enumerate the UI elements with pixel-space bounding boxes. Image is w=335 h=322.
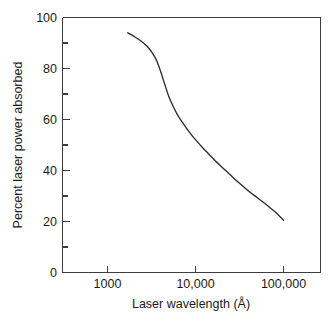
x-tick-label-1000: 1000 — [94, 277, 122, 291]
y-axis-title: Percent laser power absorbed — [11, 62, 25, 229]
line-chart: 100 80 60 40 20 0 1000 10,000 100,000 La… — [0, 0, 335, 322]
y-tick-label-100: 100 — [36, 11, 57, 25]
y-tick-label-0: 0 — [50, 266, 57, 280]
x-axis-title: Laser wavelength (Å) — [132, 296, 250, 311]
y-tick-label-60: 60 — [43, 113, 57, 127]
chart-figure: 100 80 60 40 20 0 1000 10,000 100,000 La… — [0, 0, 335, 322]
x-tick-label-100000: 100,000 — [261, 277, 306, 291]
x-tick-label-10000: 10,000 — [176, 277, 214, 291]
y-tick-label-40: 40 — [43, 164, 57, 178]
y-tick-label-80: 80 — [43, 62, 57, 76]
y-tick-label-20: 20 — [43, 215, 57, 229]
